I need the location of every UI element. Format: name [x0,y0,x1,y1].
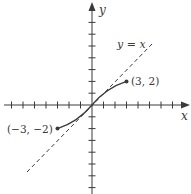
y-axis-label: y [98,3,106,17]
x-axis-label: x [181,109,188,123]
x-axis [4,102,190,109]
graph-canvas: y x y = x (3, 2) (−3, −2) [0,0,191,194]
y-axis [89,2,96,194]
endpoint-marker-upper [125,79,129,83]
endpoint-marker-lower [56,127,60,131]
x-axis-arrow-icon [181,102,190,109]
reference-line-label: y = x [116,38,146,51]
y-axis-arrow-icon [89,2,96,11]
endpoint-label-upper: (3, 2) [131,75,159,87]
endpoint-label-lower: (−3, −2) [7,123,53,135]
